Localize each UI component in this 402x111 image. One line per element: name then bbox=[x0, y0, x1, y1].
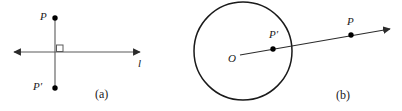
caption-a: (a) bbox=[95, 88, 108, 100]
label-point-p-b: P bbox=[347, 16, 354, 27]
point-p-marker bbox=[52, 15, 57, 20]
point-p-prime-marker bbox=[52, 85, 57, 90]
point-p-prime-marker-b bbox=[270, 46, 275, 51]
right-angle-square-icon bbox=[57, 45, 64, 52]
ray-o-through-p bbox=[240, 29, 390, 55]
label-center-o: O bbox=[228, 53, 236, 64]
caption-b: (b) bbox=[336, 89, 350, 101]
label-point-p-a: P bbox=[40, 11, 47, 22]
label-point-p-prime-b: P′ bbox=[269, 29, 278, 40]
geometry-figure: P P′ l (a) O P′ P (b) bbox=[0, 0, 402, 111]
panel-b-graphics bbox=[194, 2, 390, 100]
label-point-p-prime-a: P′ bbox=[33, 81, 42, 92]
circle-shape bbox=[194, 2, 292, 100]
point-p-marker-b bbox=[348, 32, 353, 37]
label-line-l: l bbox=[138, 58, 141, 69]
